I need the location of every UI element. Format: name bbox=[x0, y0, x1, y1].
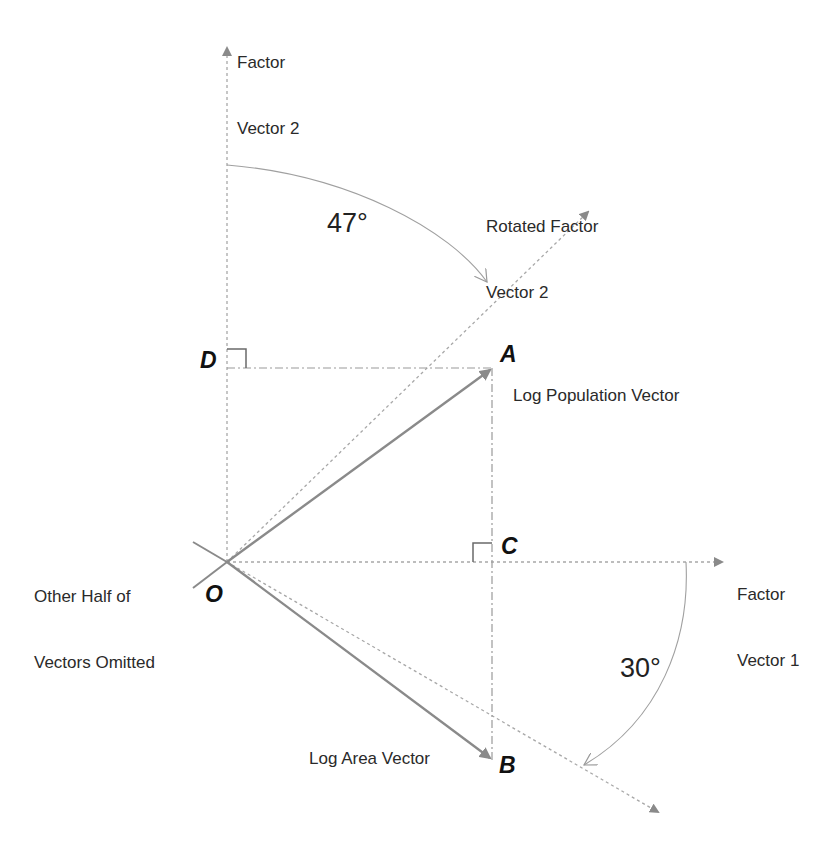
factor-vector-1-label: Factor Vector 1 bbox=[737, 540, 799, 694]
factor-vector-2-label: Factor Vector 2 bbox=[237, 8, 299, 162]
log-area-vector bbox=[227, 562, 490, 758]
right-angle-marker-D bbox=[227, 349, 246, 368]
omitted-half-line-upper bbox=[193, 542, 227, 562]
omitted-vectors-note: Other Half of Vectors Omitted bbox=[34, 542, 155, 696]
omitted-vectors-note-line1: Other Half of bbox=[34, 586, 155, 608]
factor-vector-1-label-line2: Vector 1 bbox=[737, 650, 799, 672]
log-population-vector bbox=[227, 370, 490, 562]
omitted-vectors-note-line2: Vectors Omitted bbox=[34, 652, 155, 674]
diagram-canvas bbox=[0, 0, 837, 847]
angle-47-label: 47° bbox=[327, 208, 368, 238]
angle-30-label: 30° bbox=[620, 653, 661, 683]
point-O-label: O bbox=[205, 581, 223, 607]
factor-vector-2-label-line1: Factor bbox=[237, 52, 299, 74]
point-C-label: C bbox=[501, 533, 518, 559]
log-population-vector-label: Log Population Vector bbox=[513, 385, 679, 407]
factor-vector-2-label-line2: Vector 2 bbox=[237, 118, 299, 140]
rotated-factor-vector-2-label-line2: Vector 2 bbox=[486, 282, 598, 304]
log-area-vector-label: Log Area Vector bbox=[309, 748, 430, 770]
rotated-factor-vector-2-label-line1: Rotated Factor bbox=[486, 216, 598, 238]
point-B-label: B bbox=[499, 752, 516, 778]
point-A-label: A bbox=[500, 341, 517, 367]
point-D-label: D bbox=[200, 347, 217, 373]
rotated-factor-vector-2-label: Rotated Factor Vector 2 bbox=[486, 172, 598, 326]
right-angle-marker-C bbox=[473, 543, 492, 562]
rotated-factor-vector-1-axis bbox=[227, 562, 658, 812]
factor-vector-1-label-line1: Factor bbox=[737, 584, 799, 606]
